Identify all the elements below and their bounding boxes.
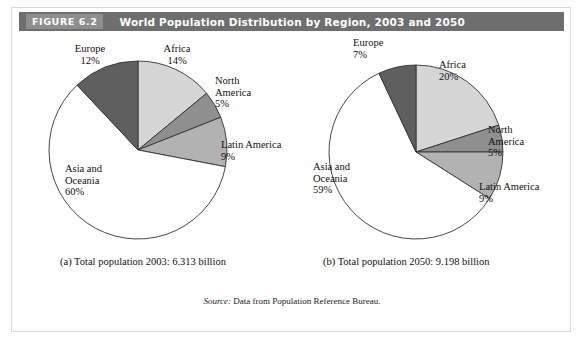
label-text: Latin America xyxy=(479,181,539,192)
label-text: Africa xyxy=(439,59,466,70)
figure-number-badge: FIGURE 6.2 xyxy=(26,14,103,29)
label-text-2: Oceania xyxy=(65,175,139,187)
label-text: Europe xyxy=(353,37,383,48)
pie-label-latin-america-2050: Latin America 9% xyxy=(479,181,565,204)
label-text: Asia and xyxy=(313,161,350,172)
label-percent: 60% xyxy=(65,186,139,198)
pie-label-north-america-2050: North America 5% xyxy=(488,124,560,159)
label-text-2: Oceania xyxy=(313,173,387,185)
source-text: Data from Population Reference Bureau. xyxy=(231,296,380,306)
label-text-2: America xyxy=(488,136,560,148)
pie-label-europe-2050: Europe 7% xyxy=(353,37,417,60)
label-percent: 7% xyxy=(353,49,417,61)
pie-label-europe-2003: Europe 12% xyxy=(58,43,122,66)
figure-source: Source: Data from Population Reference B… xyxy=(0,296,584,306)
label-text: Asia and xyxy=(65,163,102,174)
label-percent: 5% xyxy=(488,147,560,159)
pie-label-africa-2003: Africa 14% xyxy=(149,43,205,66)
pie-label-latin-america-2003: Latin America 9% xyxy=(221,139,301,162)
charts-area: Europe 12% Africa 14% North America 5% L… xyxy=(11,33,571,283)
pie-label-africa-2050: Africa 20% xyxy=(439,59,499,82)
source-label: Source: xyxy=(203,296,231,306)
pie-panel-2050: Europe 7% Africa 20% North America 5% La… xyxy=(291,33,571,283)
panel-caption-2003: (a) Total population 2003: 6.313 billion xyxy=(60,256,226,267)
pie-panel-2003: Europe 12% Africa 14% North America 5% L… xyxy=(16,33,296,283)
pie-label-asia-oceania-2003: Asia and Oceania 60% xyxy=(65,163,139,198)
label-text: North xyxy=(488,124,513,135)
label-percent: 59% xyxy=(313,184,387,196)
panel-caption-2050: (b) Total population 2050: 9.198 billion xyxy=(323,256,489,267)
label-percent: 12% xyxy=(58,55,122,67)
label-percent: 9% xyxy=(221,151,301,163)
label-percent: 20% xyxy=(439,71,499,83)
figure-header-bar: FIGURE 6.2 World Population Distribution… xyxy=(19,12,564,31)
label-text-2: America xyxy=(215,87,287,99)
label-percent: 14% xyxy=(149,55,205,67)
label-text: Africa xyxy=(164,43,191,54)
figure-title: World Population Distribution by Region,… xyxy=(119,16,465,28)
label-percent: 5% xyxy=(215,98,287,110)
label-text: Latin America xyxy=(221,139,281,150)
label-percent: 9% xyxy=(479,193,565,205)
label-text: Europe xyxy=(75,43,105,54)
label-text: North xyxy=(215,75,240,86)
figure-container: FIGURE 6.2 World Population Distribution… xyxy=(0,0,584,346)
pie-label-north-america-2003: North America 5% xyxy=(215,75,287,110)
pie-label-asia-oceania-2050: Asia and Oceania 59% xyxy=(313,161,387,196)
